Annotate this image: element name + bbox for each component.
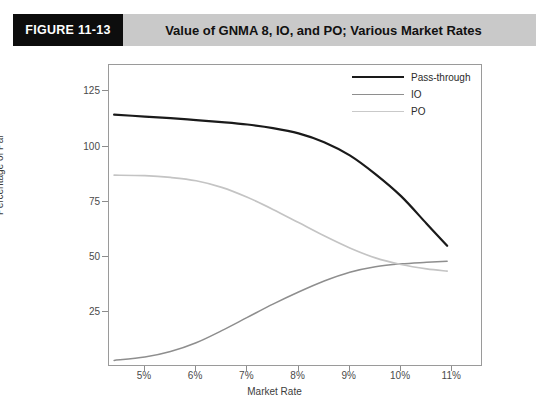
legend-item: IO (352, 89, 470, 99)
legend-label: PO (411, 106, 425, 117)
y-tick-label: 100 (83, 140, 100, 151)
series-line-pass-through (114, 115, 447, 246)
legend-swatch (352, 76, 404, 78)
y-tick-mark (102, 256, 108, 257)
x-tick-label: 7% (239, 370, 253, 381)
y-tick-label: 25 (89, 305, 100, 316)
legend-swatch (352, 111, 404, 112)
y-tick-mark (102, 311, 108, 312)
chart-container: Percentage of Par 255075100125 5%6%7%8%9… (0, 46, 549, 399)
legend-item: PO (352, 106, 470, 116)
y-axis-title: Percentage of Par (0, 134, 5, 215)
x-tick-mark (349, 366, 350, 371)
legend-label: Pass-through (411, 72, 470, 83)
x-tick-mark (298, 366, 299, 371)
x-tick-label: 5% (137, 370, 151, 381)
legend-swatch (352, 94, 404, 95)
y-tick-label: 50 (89, 250, 100, 261)
chart-legend: Pass-throughIOPO (352, 72, 470, 116)
plot-area: Pass-throughIOPO (108, 64, 482, 366)
x-axis-tick-labels: 5%6%7%8%9%10%11% (108, 366, 482, 382)
series-line-io (114, 261, 447, 360)
x-tick-mark (400, 366, 401, 371)
figure-header-banner: FIGURE 11-13 Value of GNMA 8, IO, and PO… (13, 14, 536, 46)
x-axis-title: Market Rate (0, 386, 549, 397)
x-tick-mark (246, 366, 247, 371)
y-tick-label: 75 (89, 195, 100, 206)
x-tick-label: 9% (342, 370, 356, 381)
y-tick-mark (102, 90, 108, 91)
series-line-po (114, 175, 447, 271)
figure-title: Value of GNMA 8, IO, and PO; Various Mar… (123, 14, 536, 46)
x-tick-label: 10% (390, 370, 410, 381)
x-tick-label: 8% (290, 370, 304, 381)
x-tick-mark (144, 366, 145, 371)
x-tick-mark (451, 366, 452, 371)
x-tick-label: 6% (188, 370, 202, 381)
legend-label: IO (411, 89, 422, 100)
y-axis-tick-labels: 255075100125 (70, 64, 100, 366)
y-tick-label: 125 (83, 85, 100, 96)
x-tick-label: 11% (442, 370, 461, 381)
y-tick-mark (102, 201, 108, 202)
y-tick-mark (102, 146, 108, 147)
legend-item: Pass-through (352, 72, 470, 82)
figure-number-label: FIGURE 11-13 (13, 14, 123, 46)
x-tick-mark (195, 366, 196, 371)
